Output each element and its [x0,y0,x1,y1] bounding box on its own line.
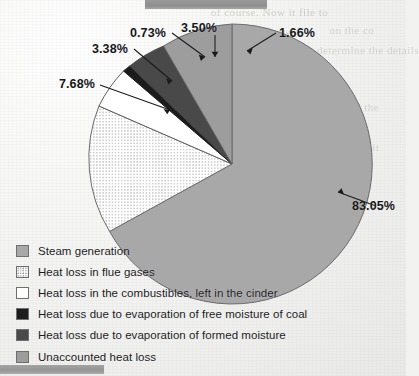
legend-label-free-moisture: Heat loss due to evaporation of free moi… [38,308,307,320]
legend-item-combustibles[interactable]: Heat loss in the combustibles, left in t… [16,282,396,303]
legend-swatch-flue-gases [16,266,29,278]
legend-swatch-unaccounted [16,351,29,363]
label-flue-gases-pct: 7.68% [59,77,95,91]
legend-swatch-free-moisture [16,308,29,320]
legend-item-steam-generation[interactable]: Steam generation [16,240,396,261]
legend-swatch-formed-moisture [16,329,29,341]
legend-swatch-steam-generation [16,245,29,257]
legend-label-formed-moisture: Heat loss due to evaporation of formed m… [38,329,286,341]
chart-legend: Steam generation Heat loss in flue gases… [16,240,396,367]
legend-label-flue-gases: Heat loss in flue gases [38,266,155,278]
label-formed-moisture-pct: 3.50% [181,21,217,35]
legend-label-combustibles: Heat loss in the combustibles, left in t… [38,287,278,299]
label-combustibles-pct: 3.38% [92,42,128,56]
legend-item-unaccounted[interactable]: Unaccounted heat loss [16,346,396,367]
legend-item-flue-gases[interactable]: Heat loss in flue gases [16,261,396,282]
label-steam-generation-pct: 83.05% [352,199,395,213]
legend-swatch-combustibles [16,287,29,299]
label-unaccounted-pct: 1.66% [279,26,315,40]
legend-item-formed-moisture[interactable]: Heat loss due to evaporation of formed m… [16,325,396,346]
legend-label-steam-generation: Steam generation [38,245,130,257]
legend-label-unaccounted: Unaccounted heat loss [38,351,156,363]
label-free-moisture-pct: 0.73% [130,26,166,40]
legend-item-free-moisture[interactable]: Heat loss due to evaporation of free moi… [16,304,396,325]
